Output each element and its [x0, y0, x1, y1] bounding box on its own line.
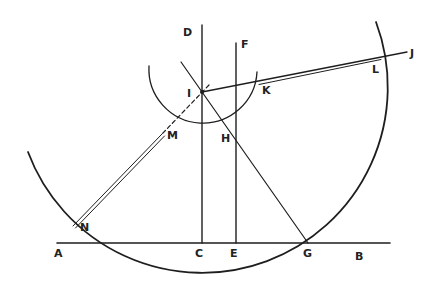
label-e: E — [230, 247, 238, 260]
small-arc — [149, 66, 257, 123]
label-j: J — [409, 47, 414, 60]
label-k: K — [262, 84, 271, 97]
label-a: A — [54, 247, 63, 260]
label-i: I — [187, 87, 191, 100]
label-c: C — [195, 247, 203, 260]
label-g: G — [303, 247, 312, 260]
label-l: L — [372, 63, 379, 76]
double-line-kl — [259, 60, 381, 85]
large-arc — [28, 22, 388, 273]
double-line-mn-a — [73, 134, 162, 226]
point-i-dot — [200, 90, 204, 94]
label-d: D — [183, 26, 192, 39]
label-m: M — [167, 129, 178, 142]
label-h: H — [221, 132, 230, 145]
double-line-mn-b — [76, 136, 165, 228]
geometry-diagram: A B C D E F G H I J K L M N — [0, 0, 447, 296]
label-f: F — [241, 38, 249, 51]
line-ig — [181, 62, 308, 243]
label-n: N — [80, 221, 89, 234]
label-b: B — [355, 250, 363, 263]
